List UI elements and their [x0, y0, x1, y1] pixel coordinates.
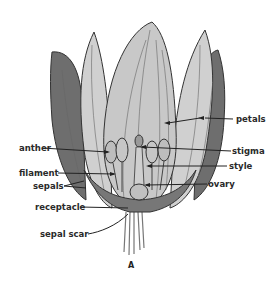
label-petals: petals	[236, 114, 266, 124]
label-stigma: stigma	[232, 146, 265, 156]
label-style: style	[229, 161, 253, 171]
stem	[124, 212, 144, 255]
label-ovary: ovary	[208, 179, 235, 189]
label-filament: filament	[19, 168, 59, 178]
label-receptacle: receptacle	[35, 202, 86, 212]
label-anther: anther	[19, 143, 52, 153]
label-sepal-scar: sepal scar	[40, 229, 89, 239]
figure-caption: A	[128, 261, 135, 270]
flower-illustration: petals anther stigma filament style sepa…	[0, 0, 277, 286]
flower-diagram: petals anther stigma filament style sepa…	[0, 0, 277, 286]
label-sepals: sepals	[33, 181, 64, 191]
